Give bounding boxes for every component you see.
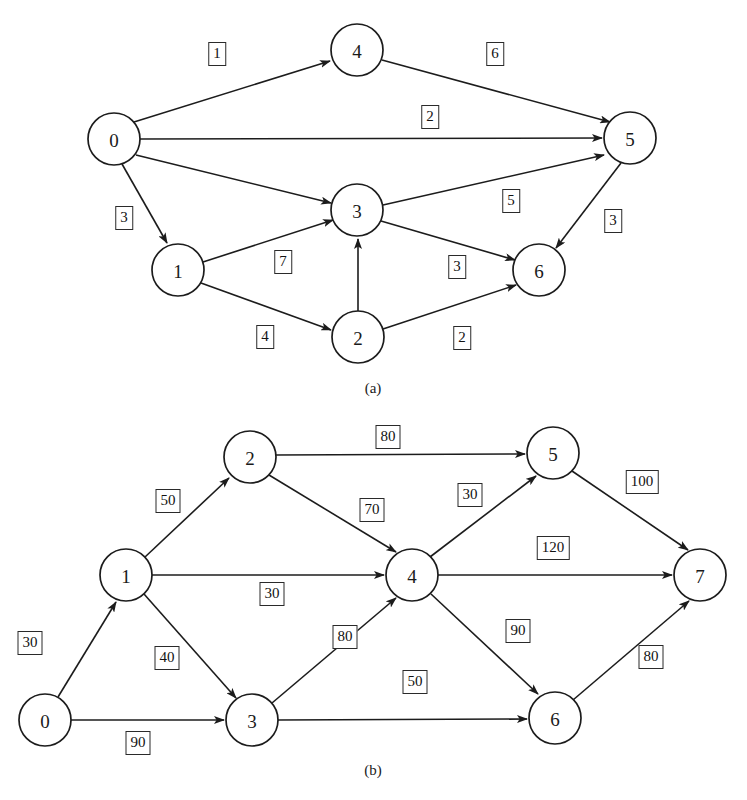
node-a-0[interactable]: 0 (88, 113, 140, 165)
edge-0-1 (58, 602, 116, 697)
edge-weight-label: 90 (126, 731, 151, 755)
node-label: 1 (121, 566, 131, 587)
edge-weight-label: 4 (256, 325, 274, 349)
node-label: 6 (534, 261, 544, 282)
edge-weight-label: 100 (626, 470, 659, 494)
edge-0-1 (122, 164, 167, 243)
node-b-4[interactable]: 4 (386, 549, 438, 601)
node-label: 0 (109, 130, 119, 151)
figure-root: 0 1 2 3 4 (0, 0, 747, 800)
node-b-5[interactable]: 5 (527, 427, 579, 479)
node-a-6[interactable]: 6 (513, 244, 565, 296)
edge-0-5 (140, 138, 602, 139)
graph-a-canvas: 0 1 2 3 4 (0, 0, 747, 400)
edge-weight-label: 2 (453, 326, 471, 350)
edge-3-6 (278, 719, 527, 720)
edge-weight-label: 6 (486, 42, 504, 66)
edge-5-6 (556, 163, 621, 248)
graph-panel-b: 0 1 2 3 4 (0, 400, 747, 800)
node-label: 2 (353, 328, 363, 349)
edge-1-3 (203, 220, 333, 262)
node-a-2[interactable]: 2 (332, 311, 384, 363)
edge-weight-label: 90 (506, 619, 531, 643)
edge-weight-label: 5 (502, 189, 520, 213)
node-label: 5 (625, 129, 635, 150)
edge-weight-label: 80 (639, 645, 664, 669)
node-b-2[interactable]: 2 (224, 431, 276, 483)
edge-weight-label: 7 (274, 250, 292, 274)
edge-4-6 (431, 594, 538, 694)
node-a-4[interactable]: 4 (331, 24, 383, 76)
graph-b-canvas: 0 1 2 3 4 (0, 400, 747, 800)
node-label: 6 (550, 709, 560, 730)
node-label: 3 (247, 711, 257, 732)
edge-weight-label: 70 (360, 498, 385, 522)
edge-weight-label: 2 (421, 105, 439, 129)
edge-weight-label: 3 (115, 206, 133, 230)
node-label: 3 (352, 201, 362, 222)
node-b-0[interactable]: 0 (19, 694, 71, 746)
node-a-5[interactable]: 5 (604, 112, 656, 164)
panel-caption-b: (b) (364, 762, 382, 779)
graph-b-nodes: 0 1 2 3 4 (19, 427, 726, 746)
edge-6-7 (573, 601, 689, 700)
edge-weight-label: 80 (376, 425, 401, 449)
node-b-6[interactable]: 6 (529, 692, 581, 744)
node-label: 0 (40, 711, 50, 732)
node-b-3[interactable]: 3 (226, 694, 278, 746)
edge-3-5 (383, 155, 604, 205)
edge-weight-label: 1 (208, 42, 226, 66)
node-label: 7 (695, 566, 705, 587)
edge-weight-label: 3 (604, 209, 622, 233)
node-label: 5 (548, 444, 558, 465)
node-label: 4 (352, 41, 362, 62)
edge-weight-label: 30 (260, 582, 285, 606)
node-a-3[interactable]: 3 (331, 184, 383, 236)
edge-weight-label: 40 (155, 646, 180, 670)
edge-weight-label: 50 (156, 489, 181, 513)
edge-0-3 (136, 155, 331, 203)
edge-weight-label: 120 (537, 536, 570, 560)
edge-1-2 (201, 283, 331, 330)
panel-caption-a: (a) (365, 380, 382, 397)
edge-3-4 (272, 598, 396, 703)
edge-weight-label: 3 (448, 255, 466, 279)
edge-0-4 (134, 61, 330, 122)
graph-panel-a: 0 1 2 3 4 (0, 0, 747, 400)
edge-2-6 (383, 285, 516, 329)
edge-4-5 (430, 476, 536, 557)
edge-weight-label: 50 (403, 670, 428, 694)
graph-a-nodes: 0 1 2 3 4 (88, 24, 656, 363)
node-label: 4 (407, 566, 417, 587)
edge-weight-label: 30 (18, 631, 43, 655)
edge-weight-label: 80 (333, 625, 358, 649)
node-a-1[interactable]: 1 (152, 244, 204, 296)
node-label: 1 (173, 261, 183, 282)
node-b-1[interactable]: 1 (100, 549, 152, 601)
edge-4-5 (382, 60, 610, 122)
node-label: 2 (245, 448, 255, 469)
node-b-7[interactable]: 7 (674, 549, 726, 601)
edge-2-5 (276, 454, 525, 455)
graph-b-edges (58, 454, 689, 720)
edge-weight-label: 30 (458, 483, 483, 507)
